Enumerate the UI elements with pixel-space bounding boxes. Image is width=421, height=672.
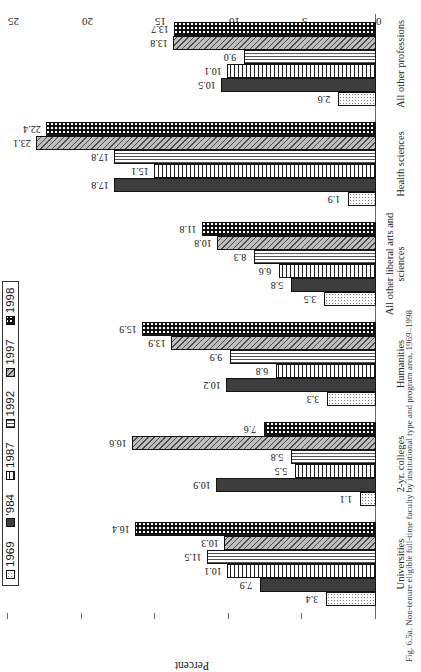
legend-swatch-icon: [6, 368, 15, 377]
bar[interactable]: 10.5: [221, 78, 376, 92]
bar[interactable]: 7.9: [260, 578, 376, 592]
bar[interactable]: 10.8: [217, 236, 376, 250]
bar-value-label: 10.3: [202, 538, 220, 548]
bar-value-label: 3.4: [306, 594, 319, 604]
bar[interactable]: 9.9: [230, 350, 376, 364]
bar[interactable]: 15.9: [142, 322, 376, 336]
bar[interactable]: 8.3: [254, 250, 376, 264]
legend-item-1987[interactable]: 1987: [5, 442, 16, 480]
legend-item-1992[interactable]: 1992: [5, 391, 16, 429]
bar[interactable]: 22.4: [46, 122, 376, 136]
bar-group: 3.310.26.89.913.915.9Humanities: [8, 314, 376, 414]
bar[interactable]: 10.1: [227, 64, 376, 78]
bar[interactable]: 5.8: [291, 278, 376, 292]
bar[interactable]: 2.6: [338, 92, 376, 106]
bar-value-label: 22.4: [24, 124, 42, 134]
bar[interactable]: 23.1: [36, 136, 376, 150]
bar-value-label: 2.6: [317, 94, 330, 104]
bar[interactable]: 3.5: [324, 292, 376, 306]
bar-value-label: 3.3: [307, 394, 320, 404]
bar-value-label: 17.8: [91, 152, 109, 162]
legend-item-1998[interactable]: 1998: [5, 288, 16, 326]
bar[interactable]: 1.1: [360, 492, 376, 506]
bar[interactable]: 15.1: [154, 164, 376, 178]
bar-value-label: 15.9: [119, 324, 137, 334]
bar-value-label: 11.8: [180, 224, 197, 234]
bar-value-label: 8.3: [234, 252, 247, 262]
bar-value-label: 16.4: [112, 524, 130, 534]
bar-value-label: 10.1: [205, 66, 223, 76]
bar[interactable]: 5.5: [295, 464, 376, 478]
bar-value-label: 6.6: [259, 266, 272, 276]
bar[interactable]: 13.8: [173, 36, 376, 50]
value-axis-title: Percent: [175, 660, 209, 672]
bar-value-label: 1.1: [340, 494, 353, 504]
legend-item-label: 1987: [5, 442, 16, 468]
bar-group: 3.55.86.68.310.811.8All other liberal ar…: [8, 214, 376, 314]
bar-value-label: 9.0: [223, 52, 236, 62]
bar[interactable]: 17.8: [114, 150, 376, 164]
category-label: Health sciences: [395, 112, 406, 216]
bar[interactable]: 10.2: [226, 378, 376, 392]
bar-group: 1.110.95.55.816.67.62-yr. colleges: [8, 414, 376, 514]
bar-value-label: 10.2: [203, 380, 221, 390]
bar-value-label: 5.5: [275, 466, 288, 476]
category-label: All other liberal arts and sciences: [384, 212, 406, 316]
figure-caption: Fig. 6.5a. Non-tenure eligible full-time…: [404, 310, 414, 662]
bar-value-label: 13.8: [150, 38, 168, 48]
bar[interactable]: 13.9: [171, 336, 376, 350]
bar-value-label: 3.5: [304, 294, 317, 304]
bar-value-label: 9.9: [210, 352, 223, 362]
bar[interactable]: 6.6: [279, 264, 376, 278]
chart-legend: 1969'9841987199219971998: [2, 281, 19, 586]
bar[interactable]: 7.6: [264, 422, 376, 436]
bar[interactable]: 11.5: [207, 550, 376, 564]
bar-group: 3.47.910.111.510.316.4Universities: [8, 514, 376, 614]
bar-value-label: 10.5: [199, 80, 217, 90]
legend-item-984[interactable]: '984: [5, 494, 16, 527]
bar[interactable]: 10.9: [216, 478, 376, 492]
bar-value-label: 10.8: [194, 238, 212, 248]
bar-value-label: 15.1: [131, 166, 149, 176]
bar[interactable]: 10.1: [227, 564, 376, 578]
bar[interactable]: 3.4: [326, 592, 376, 606]
bar-value-label: 7.6: [244, 424, 257, 434]
bar-value-label: 13.7: [152, 24, 170, 34]
bar[interactable]: 16.6: [132, 436, 376, 450]
legend-swatch-icon: [6, 419, 15, 428]
bar[interactable]: 17.8: [114, 178, 376, 192]
bar-value-label: 16.6: [109, 438, 127, 448]
legend-swatch-icon: [6, 518, 15, 527]
legend-item-1969[interactable]: 1969: [5, 541, 16, 579]
legend-item-label: 1992: [5, 391, 16, 417]
legend-item-label: 1998: [5, 288, 16, 314]
legend-item-1997[interactable]: 1997: [5, 339, 16, 377]
bar-value-label: 10.9: [193, 480, 211, 490]
bar-value-label: 7.9: [239, 580, 252, 590]
bar[interactable]: 9.0: [244, 50, 376, 64]
legend-swatch-icon: [6, 471, 15, 480]
bar-value-label: 6.8: [256, 366, 269, 376]
bar[interactable]: 13.7: [174, 22, 376, 36]
bar[interactable]: 10.3: [224, 536, 376, 550]
bar[interactable]: 11.8: [202, 222, 376, 236]
figure-rotator: 0510152025 3.47.910.111.510.316.4Univers…: [0, 0, 421, 672]
legend-swatch-icon: [6, 570, 15, 579]
bar[interactable]: 1.9: [348, 192, 376, 206]
plot-area: 0510152025 3.47.910.111.510.316.4Univers…: [8, 14, 376, 614]
bar-value-label: 23.1: [13, 138, 31, 148]
bar-group: 1.917.815.117.823.122.4Health sciences: [8, 114, 376, 214]
legend-item-label: 1969: [5, 541, 16, 567]
bar-value-label: 13.9: [149, 338, 167, 348]
bar-value-label: 10.1: [205, 566, 223, 576]
bar[interactable]: 16.4: [135, 522, 376, 536]
bar[interactable]: 6.8: [276, 364, 376, 378]
bar-value-label: 17.8: [91, 180, 109, 190]
legend-item-label: '984: [5, 494, 16, 515]
value-axis-tick-label: 0: [376, 17, 382, 27]
bar-value-label: 11.5: [184, 552, 201, 562]
bar[interactable]: 3.3: [327, 392, 376, 406]
bar[interactable]: 5.8: [291, 450, 376, 464]
bar-value-label: 1.9: [328, 194, 341, 204]
bar-value-label: 5.8: [270, 452, 283, 462]
